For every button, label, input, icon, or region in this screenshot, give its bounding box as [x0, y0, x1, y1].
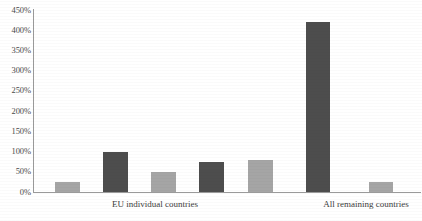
bar: [55, 182, 80, 192]
bar: [306, 22, 330, 192]
bars-layer: [0, 0, 422, 221]
bar-chart: 450%400%350%300%250%200%150%100%50%0% EU…: [0, 0, 422, 221]
x-axis-group-label: All remaining countries: [323, 198, 408, 210]
bar: [248, 160, 273, 192]
bar: [199, 162, 224, 192]
bar: [103, 152, 128, 192]
bar: [369, 182, 393, 192]
plot-area: 450%400%350%300%250%200%150%100%50%0% EU…: [0, 0, 422, 221]
bar: [151, 172, 176, 192]
x-axis-group-label: EU individual countries: [112, 198, 198, 210]
